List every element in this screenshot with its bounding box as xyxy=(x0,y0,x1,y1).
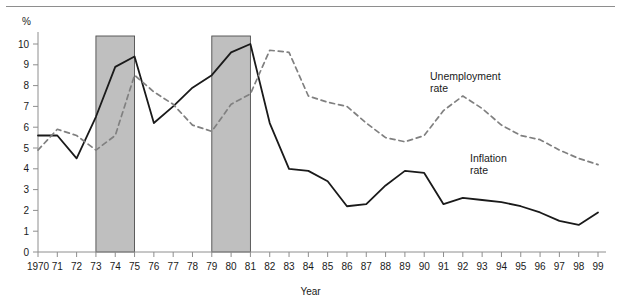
x-tick-label: 76 xyxy=(148,261,160,272)
x-tick-label: 81 xyxy=(245,261,257,272)
y-tick-label: 6 xyxy=(23,122,29,133)
plot-area: 012345678910 197071727374757677787980818… xyxy=(0,0,621,308)
inflation-label-line2: rate xyxy=(470,164,507,176)
x-tick-label: 97 xyxy=(554,261,566,272)
unemployment-label-line1: Unemployment xyxy=(430,70,501,82)
x-tick-label: 89 xyxy=(399,261,411,272)
x-tick-label: 74 xyxy=(110,261,122,272)
x-tick-label: 75 xyxy=(129,261,141,272)
x-tick-label: 93 xyxy=(477,261,489,272)
x-tick-label: 98 xyxy=(573,261,585,272)
x-tick-label: 82 xyxy=(264,261,276,272)
y-tick-label: 5 xyxy=(23,143,29,154)
x-tick-label: 88 xyxy=(380,261,392,272)
inflation-series-label: Inflation rate xyxy=(470,152,507,176)
x-tick-label: 1970 xyxy=(27,261,50,272)
x-tick-label: 92 xyxy=(457,261,469,272)
recession-bands-group xyxy=(96,36,250,252)
y-tick-label: 2 xyxy=(23,205,29,216)
x-tick-label: 96 xyxy=(535,261,547,272)
x-tick-label: 84 xyxy=(303,261,315,272)
chart-figure: % 012345678910 1970717273747576777879808… xyxy=(0,0,621,308)
x-tick-label: 85 xyxy=(322,261,334,272)
y-tick-label: 7 xyxy=(23,101,29,112)
y-tick-label: 8 xyxy=(23,80,29,91)
x-tick-label: 72 xyxy=(71,261,83,272)
y-tick-label: 10 xyxy=(18,39,30,50)
y-tick-label: 3 xyxy=(23,184,29,195)
y-tick-label: 1 xyxy=(23,226,29,237)
x-tick-label: 90 xyxy=(419,261,431,272)
x-tick-label: 71 xyxy=(52,261,64,272)
x-tick-label: 94 xyxy=(496,261,508,272)
x-tick-label: 80 xyxy=(226,261,238,272)
x-tick-label: 86 xyxy=(341,261,353,272)
y-tick-label: 0 xyxy=(23,247,29,258)
x-tick-group: 1970717273747576777879808182838485868788… xyxy=(27,252,604,272)
x-axis-title: Year xyxy=(0,286,621,297)
y-tick-label: 9 xyxy=(23,59,29,70)
y-tick-label: 4 xyxy=(23,163,29,174)
x-tick-label: 95 xyxy=(515,261,527,272)
x-tick-label: 83 xyxy=(283,261,295,272)
x-tick-label: 87 xyxy=(361,261,373,272)
inflation-label-line1: Inflation xyxy=(470,152,507,164)
unemployment-series-label: Unemployment rate xyxy=(430,70,501,94)
x-tick-label: 91 xyxy=(438,261,450,272)
x-tick-label: 77 xyxy=(168,261,180,272)
y-tick-group: 012345678910 xyxy=(18,39,38,258)
x-tick-label: 73 xyxy=(90,261,102,272)
unemployment-label-line2: rate xyxy=(430,82,501,94)
x-tick-label: 99 xyxy=(592,261,604,272)
x-tick-label: 78 xyxy=(187,261,199,272)
x-tick-label: 79 xyxy=(206,261,218,272)
